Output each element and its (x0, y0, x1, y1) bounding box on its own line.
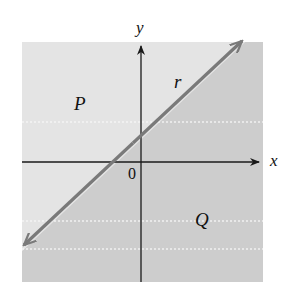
half-plane-diagram: y x 0 r P Q (0, 0, 296, 301)
x-axis-label: x (269, 151, 278, 170)
region-q-label: Q (195, 209, 209, 230)
region-p-label: P (73, 93, 86, 114)
line-r-label: r (174, 71, 182, 92)
y-axis-label: y (134, 18, 144, 37)
origin-label: 0 (128, 165, 136, 182)
